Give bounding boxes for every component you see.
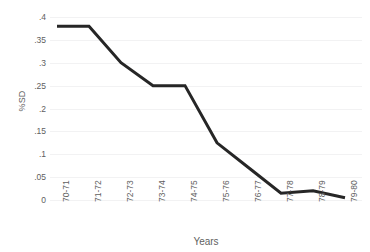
- x-tick-label: 71-72: [93, 180, 103, 202]
- y-tick-label: .15: [2, 126, 46, 136]
- y-axis-tick-labels: .4.35.3.25.2.15.1.050: [0, 17, 46, 200]
- y-tick-label: .4: [2, 12, 46, 22]
- y-tick-label: 0: [2, 195, 46, 205]
- x-tick-label: 73-74: [157, 180, 167, 202]
- x-tick-label: 79-80: [349, 180, 359, 202]
- line-chart: %SD .4.35.3.25.2.15.1.050 70-7171-7272-7…: [0, 0, 370, 252]
- series-layer: [50, 17, 362, 200]
- y-tick-label: .05: [2, 172, 46, 182]
- x-axis-title: Years: [50, 236, 362, 247]
- y-tick-label: .3: [2, 58, 46, 68]
- x-tick-label: 74-75: [189, 180, 199, 202]
- x-tick-label: 75-76: [221, 180, 231, 202]
- x-tick-label: 72-73: [125, 180, 135, 202]
- x-tick-label: 76-77: [253, 180, 263, 202]
- plot-area: [50, 17, 362, 200]
- x-tick-label: 70-71: [61, 180, 71, 202]
- x-tick-label: 78-79: [317, 180, 327, 202]
- y-tick-label: .35: [2, 35, 46, 45]
- y-tick-label: .1: [2, 149, 46, 159]
- y-tick-label: .25: [2, 81, 46, 91]
- x-axis-tick-labels: 70-7171-7272-7373-7474-7575-7676-7777-78…: [50, 202, 362, 236]
- y-tick-label: .2: [2, 104, 46, 114]
- series-line-percent-sd: [57, 26, 345, 198]
- x-tick-label: 77-78: [285, 180, 295, 202]
